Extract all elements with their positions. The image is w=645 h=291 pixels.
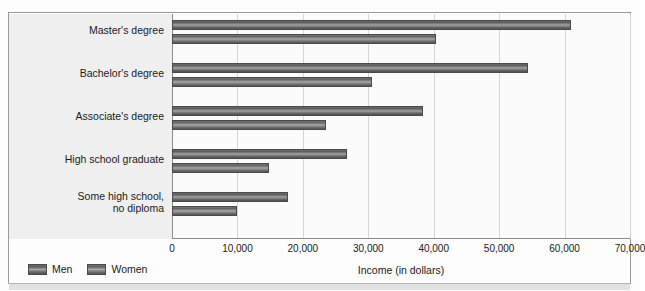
bar-women	[172, 163, 269, 173]
top-caption	[0, 0, 639, 11]
gridline-30000	[368, 14, 369, 239]
gridline-70000	[630, 14, 631, 239]
bar-men	[172, 149, 347, 159]
gridline-50000	[499, 14, 500, 239]
category-label: Bachelor's degree	[9, 67, 164, 79]
category-label: Some high school, no diploma	[9, 190, 164, 214]
legend-item-women[interactable]: Women	[87, 263, 147, 275]
x-axis-line	[172, 238, 630, 239]
legend-swatch-men-icon	[28, 264, 47, 275]
bar-women	[172, 77, 372, 87]
bar-men	[172, 63, 528, 73]
bar-men	[172, 192, 288, 202]
frame-top-border	[8, 12, 631, 13]
x-tick-label: 10,000	[222, 243, 253, 254]
x-tick-label: 0	[169, 243, 175, 254]
category-label: Master's degree	[9, 24, 164, 36]
x-tick-label: 20,000	[288, 243, 319, 254]
legend-label: Men	[52, 263, 72, 275]
footer-band	[9, 284, 630, 290]
x-tick-label: 50,000	[484, 243, 515, 254]
bar-women	[172, 120, 326, 130]
plot-area	[172, 14, 630, 239]
category-label: Associate's degree	[9, 110, 164, 122]
x-axis-title: Income (in dollars)	[172, 264, 630, 276]
chart-legend: MenWomen	[28, 263, 155, 275]
bar-women	[172, 206, 237, 216]
legend-label: Women	[111, 263, 147, 275]
x-tick-label: 60,000	[549, 243, 580, 254]
bar-men	[172, 106, 423, 116]
gridline-60000	[565, 14, 566, 239]
x-tick-label: 30,000	[353, 243, 384, 254]
gridline-40000	[434, 14, 435, 239]
category-label: High school graduate	[9, 153, 164, 165]
x-tick-label: 40,000	[418, 243, 449, 254]
bar-women	[172, 34, 436, 44]
legend-swatch-women-icon	[87, 264, 106, 275]
legend-item-men[interactable]: Men	[28, 263, 72, 275]
x-tick-label: 70,000	[615, 243, 645, 254]
bar-men	[172, 20, 571, 30]
